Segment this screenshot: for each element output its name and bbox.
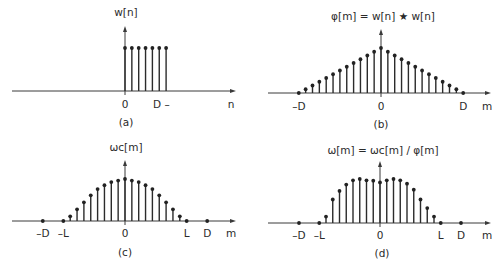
tick-label: 0 bbox=[122, 227, 129, 239]
stem-marker bbox=[41, 219, 45, 223]
stem-marker bbox=[405, 182, 409, 186]
stem-marker bbox=[459, 221, 463, 225]
stem-marker bbox=[434, 76, 438, 80]
stem-marker bbox=[317, 221, 321, 225]
stem-marker bbox=[82, 200, 86, 204]
axis-variable-label: m bbox=[482, 100, 492, 112]
stem-marker bbox=[398, 178, 402, 182]
stem-marker bbox=[407, 61, 411, 65]
stem-marker bbox=[331, 198, 335, 202]
stem-marker bbox=[393, 54, 397, 58]
axis-variable-label: m bbox=[482, 229, 492, 241]
panel-a-window-sequence: w[n]0D –n(a) bbox=[12, 6, 236, 128]
tick-label: –D bbox=[292, 229, 305, 241]
stem-marker bbox=[171, 207, 175, 211]
stem-marker bbox=[96, 187, 100, 191]
stem-marker bbox=[144, 46, 148, 50]
panel-title: w[n] bbox=[114, 6, 137, 18]
panel-b-autocorrelation: φ[m] = w[n] ★ w[n]–D0Dm(b) bbox=[268, 10, 492, 130]
stem-marker bbox=[385, 178, 389, 182]
stem-marker bbox=[461, 91, 465, 95]
stem-marker bbox=[205, 219, 209, 223]
panel-title: φ[m] = w[n] ★ w[n] bbox=[331, 10, 435, 22]
stem-marker bbox=[89, 193, 93, 197]
stem-marker bbox=[109, 180, 113, 184]
panel-caption: (d) bbox=[375, 247, 390, 259]
stem-marker bbox=[338, 69, 342, 73]
stem-marker bbox=[331, 72, 335, 76]
stem-marker bbox=[151, 46, 155, 50]
stem-marker bbox=[178, 214, 182, 218]
stem-marker bbox=[439, 221, 443, 225]
stem-marker bbox=[103, 183, 107, 187]
stem-marker bbox=[324, 215, 328, 219]
tick-label: –L bbox=[314, 229, 325, 241]
stem-marker bbox=[420, 69, 424, 73]
stem-marker bbox=[297, 221, 301, 225]
tick-label: 0 bbox=[377, 229, 384, 241]
stem-marker bbox=[365, 178, 369, 182]
panel-title: ωc[m] bbox=[110, 141, 143, 153]
stem-marker bbox=[123, 46, 127, 50]
tick-label: D – bbox=[153, 98, 170, 110]
stem-marker bbox=[338, 189, 342, 193]
stem-marker bbox=[352, 61, 356, 65]
stem-marker bbox=[371, 179, 375, 183]
stem-marker bbox=[365, 54, 369, 58]
tick-label: 0 bbox=[378, 100, 385, 112]
stem-marker bbox=[358, 177, 362, 181]
tick-label: –D bbox=[292, 100, 305, 112]
panel-title: ω[m] = ωc[m] / φ[m] bbox=[327, 144, 438, 156]
stem-marker bbox=[378, 181, 382, 185]
stem-marker bbox=[144, 183, 148, 187]
axis-variable-label: n bbox=[228, 98, 235, 110]
stem-marker bbox=[345, 65, 349, 69]
stem-marker bbox=[61, 219, 65, 223]
stem-marker bbox=[185, 219, 189, 223]
tick-label: L bbox=[184, 227, 190, 239]
tick-label: D bbox=[457, 229, 465, 241]
stem-marker bbox=[137, 180, 141, 184]
stem-marker bbox=[392, 177, 396, 181]
stem-marker bbox=[164, 46, 168, 50]
stem-marker bbox=[130, 46, 134, 50]
x-axis-arrow-icon bbox=[485, 91, 491, 95]
stem-marker bbox=[379, 46, 383, 50]
stem-marker bbox=[317, 80, 321, 84]
stem-marker bbox=[412, 188, 416, 192]
x-axis-arrow-icon bbox=[230, 219, 236, 223]
panel-d-corrected-window: ω[m] = ωc[m] / φ[m]–D–L0LDm(d) bbox=[268, 144, 492, 259]
stem-marker bbox=[297, 91, 301, 95]
figure-canvas: w[n]0D –n(a) φ[m] = w[n] ★ w[n]–D0Dm(b) … bbox=[0, 0, 501, 269]
y-axis-arrow-icon bbox=[378, 161, 382, 167]
stem-marker bbox=[432, 215, 436, 219]
stem-marker bbox=[400, 57, 404, 61]
x-axis-arrow-icon bbox=[230, 89, 236, 93]
stem-marker bbox=[157, 46, 161, 50]
panel-caption: (a) bbox=[119, 116, 134, 128]
stem-marker bbox=[448, 84, 452, 88]
stem-marker bbox=[454, 87, 458, 91]
tick-label: D bbox=[459, 100, 467, 112]
tick-label: L bbox=[438, 229, 444, 241]
stem-marker bbox=[130, 179, 134, 183]
stem-marker bbox=[419, 198, 423, 202]
stem-marker bbox=[123, 177, 127, 181]
stem-marker bbox=[164, 200, 168, 204]
panel-c-lag-window: ωc[m]–D–L0LDm(c) bbox=[12, 141, 236, 258]
panel-caption: (b) bbox=[374, 118, 389, 130]
y-axis-arrow-icon bbox=[379, 29, 383, 35]
stem-marker bbox=[137, 46, 141, 50]
tick-label: –D bbox=[36, 227, 49, 239]
stem-marker bbox=[351, 178, 355, 182]
stem-marker bbox=[311, 84, 315, 88]
stem-marker bbox=[68, 214, 72, 218]
stem-marker bbox=[157, 193, 161, 197]
tick-label: D bbox=[203, 227, 211, 239]
stem-marker bbox=[116, 179, 120, 183]
stem-marker bbox=[324, 76, 328, 80]
tick-label: –L bbox=[58, 227, 69, 239]
panel-caption: (c) bbox=[118, 246, 132, 258]
axis-variable-label: m bbox=[226, 227, 236, 239]
tick-label: 0 bbox=[122, 98, 129, 110]
